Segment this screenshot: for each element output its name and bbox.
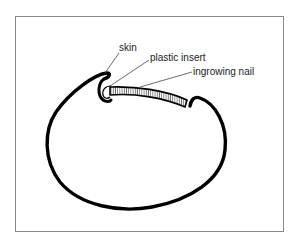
label-skin: skin (119, 43, 137, 53)
ingrowing-nail (110, 87, 187, 107)
leader-plastic-insert (110, 60, 149, 86)
leader-ingrowing-nail (140, 72, 192, 87)
toe-cross-section (0, 0, 297, 240)
leader-skin (105, 53, 119, 73)
label-ingrowing-nail: ingrowing nail (193, 67, 254, 77)
label-plastic-insert: plastic insert (150, 53, 206, 63)
